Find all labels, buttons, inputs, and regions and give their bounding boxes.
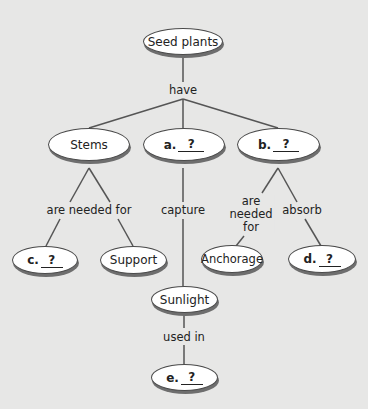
node-a-letter: a.	[164, 138, 177, 152]
node-c-letter: c.	[27, 253, 39, 267]
node-c-blank-answer: ?	[41, 253, 63, 268]
node-e-letter: e.	[166, 371, 179, 385]
link-capture: capture	[159, 204, 207, 217]
node-a-blank-answer: ?	[178, 137, 204, 152]
node-b-letter: b.	[258, 138, 271, 152]
node-d-letter: d.	[303, 252, 316, 266]
node-b-blank-answer: ?	[273, 137, 299, 152]
node-b-blank: b. ?	[237, 128, 320, 161]
node-sunlight-label: Sunlight	[160, 293, 209, 307]
link-stems-needed-for: are needed for	[45, 204, 134, 217]
node-anchorage-label: Anchorage	[201, 252, 263, 266]
node-e-blank: e. ?	[151, 364, 218, 391]
link-have: have	[167, 84, 199, 97]
node-sunlight: Sunlight	[151, 286, 218, 313]
link-b-needed-line3: for	[229, 221, 272, 234]
node-stems: Stems	[48, 128, 130, 161]
node-anchorage: Anchorage	[201, 245, 263, 273]
node-seed-plants: Seed plants	[143, 28, 223, 55]
link-absorb: absorb	[280, 204, 323, 217]
node-support-label: Support	[110, 253, 157, 267]
node-c-blank: c. ?	[12, 246, 78, 274]
node-stems-label: Stems	[70, 138, 108, 152]
node-a-blank: a. ?	[143, 128, 225, 161]
node-seed-plants-label: Seed plants	[148, 35, 219, 49]
node-d-blank: d. ?	[288, 245, 356, 273]
node-support: Support	[100, 246, 167, 274]
node-e-blank-answer: ?	[181, 370, 203, 385]
node-d-blank-answer: ?	[319, 252, 341, 267]
link-b-needed-for: are needed for	[227, 195, 274, 234]
link-used-in: used in	[161, 331, 207, 344]
